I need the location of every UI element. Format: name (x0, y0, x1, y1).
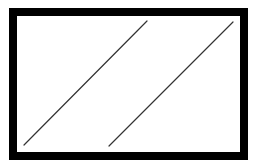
diagram-svg (0, 0, 256, 162)
frame-inner-area (17, 16, 240, 152)
diagram-canvas (0, 0, 256, 162)
